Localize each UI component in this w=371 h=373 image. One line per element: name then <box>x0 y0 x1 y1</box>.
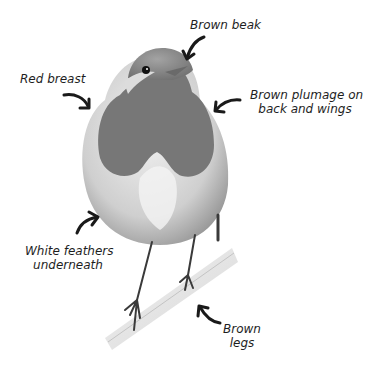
eye <box>142 66 150 74</box>
arrow-icon <box>64 95 89 108</box>
arrow-icon <box>183 37 204 59</box>
label-breast: Red breast <box>20 72 82 86</box>
label-plumage-line2: back and wings <box>250 102 360 116</box>
label-underneath: White feathers underneath <box>25 244 111 272</box>
label-beak: Brown beak <box>190 18 260 32</box>
robin-illustration <box>0 0 371 373</box>
label-beak-line1: Brown beak <box>190 18 260 32</box>
branch <box>105 248 238 350</box>
label-legs: Brown legs <box>222 322 262 350</box>
arrow-icon <box>215 100 240 112</box>
label-underneath-line2: underneath <box>25 258 111 272</box>
label-plumage: Brown plumage on back and wings <box>250 88 360 116</box>
label-breast-line1: Red breast <box>20 72 82 86</box>
label-legs-line2: legs <box>222 336 262 350</box>
label-plumage-line1: Brown plumage on <box>250 88 360 102</box>
arrow-icon <box>77 212 98 233</box>
arrow-icon <box>198 306 220 323</box>
robin-diagram: Brown beak Red breast Brown plumage on b… <box>0 0 371 373</box>
label-legs-line1: Brown <box>222 322 262 336</box>
label-underneath-line1: White feathers <box>25 244 111 258</box>
